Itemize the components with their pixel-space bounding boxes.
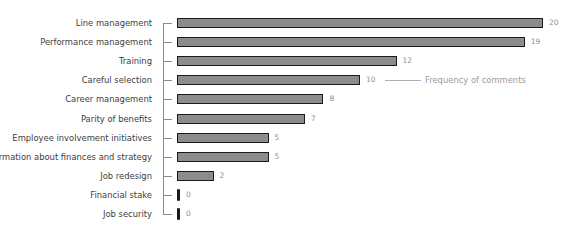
bar [177, 94, 323, 104]
bar [177, 18, 543, 28]
bar [177, 56, 397, 66]
value-label: 5 [275, 152, 280, 162]
category-label: Job security [103, 208, 152, 220]
axis-tick [163, 23, 172, 24]
axis-tick [163, 80, 172, 81]
value-label: 7 [311, 114, 316, 124]
category-label: Line management [76, 17, 152, 29]
axis-tick [163, 214, 172, 215]
bar [177, 209, 180, 220]
axis-tick [163, 99, 172, 100]
legend-label: Frequency of comments [425, 74, 526, 86]
axis-tick [163, 138, 172, 139]
axis-tick [163, 195, 172, 196]
horizontal-bar-chart: Line management20Performance management1… [0, 0, 569, 228]
value-label: 12 [403, 56, 413, 66]
bar [177, 37, 525, 47]
value-label: 5 [275, 133, 280, 143]
value-label: 10 [366, 75, 376, 85]
value-label: 0 [186, 190, 191, 200]
value-label: 0 [186, 209, 191, 219]
category-label: Employee involvement initiatives [12, 132, 152, 144]
category-label: Information about finances and strategy [0, 151, 152, 163]
value-label: 19 [531, 37, 541, 47]
category-label: Parity of benefits [81, 113, 152, 125]
axis-tick [163, 42, 172, 43]
axis-tick [163, 119, 172, 120]
axis-tick [163, 61, 172, 62]
category-label: Job redesign [100, 170, 152, 182]
legend-leader-line [385, 80, 421, 81]
category-label: Careful selection [82, 74, 152, 86]
axis-tick [163, 157, 172, 158]
value-label: 20 [549, 18, 559, 28]
value-label: 8 [329, 94, 334, 104]
bar [177, 152, 269, 162]
bar [177, 114, 305, 124]
value-label: 2 [220, 171, 225, 181]
category-label: Training [119, 55, 152, 67]
category-label: Career management [65, 93, 152, 105]
category-label: Performance management [40, 36, 152, 48]
bar [177, 171, 214, 181]
bar [177, 75, 360, 85]
bar [177, 189, 180, 200]
axis-tick [163, 176, 172, 177]
category-label: Financial stake [90, 189, 152, 201]
bar [177, 133, 269, 143]
